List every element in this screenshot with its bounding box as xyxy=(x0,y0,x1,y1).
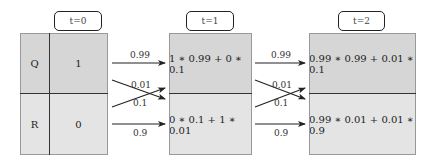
prob-qq-2: 0.99 xyxy=(271,50,291,60)
prob-rr-2: 0.9 xyxy=(274,128,288,138)
prob-qq-1: 0.99 xyxy=(130,50,150,60)
prob-rr-1: 0.9 xyxy=(133,128,147,138)
prob-qr-1: 0.01 xyxy=(131,80,151,90)
prob-rq-2: 0.1 xyxy=(274,98,288,108)
prob-qr-2: 0.01 xyxy=(272,80,292,90)
transition-arrows xyxy=(0,0,434,164)
prob-rq-1: 0.1 xyxy=(133,98,147,108)
